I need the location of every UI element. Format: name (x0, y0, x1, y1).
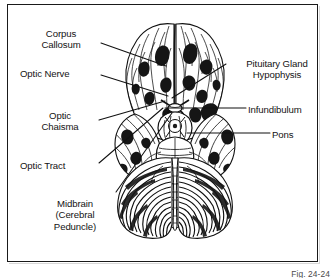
anatomy-figure: Corpus Callosum Optic Nerve Optic Chaism… (0, 0, 332, 278)
label-optic-nerve: Optic Nerve (20, 68, 102, 79)
cerebellum (118, 158, 233, 239)
label-pons: Pons (272, 129, 316, 140)
label-pituitary-gland-hypophysis: Pituitary Gland Hypophysis (228, 58, 326, 81)
figure-caption: Fig. 24-24 (291, 269, 330, 278)
label-optic-chiasma: Optic Chaisma (22, 110, 98, 133)
label-optic-tract: Optic Tract (20, 160, 100, 171)
label-infundibulum: Infundibulum (248, 104, 330, 115)
label-corpus-callosum: Corpus Callosum (22, 28, 100, 51)
brain-illustration (95, 18, 255, 246)
label-midbrain-cerebral-peduncle: Midbrain (Cerebral Peduncle) (34, 198, 116, 232)
